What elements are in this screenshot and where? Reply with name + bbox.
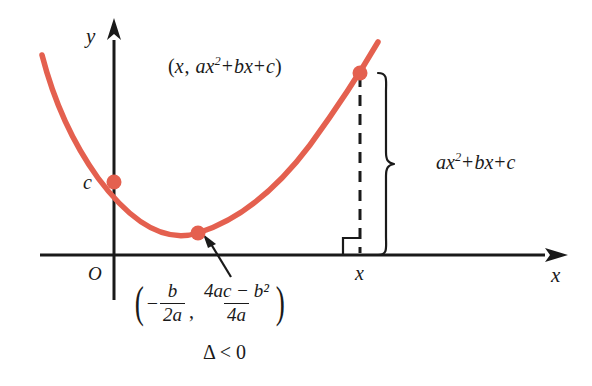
brace-expr-bx: bx [474, 151, 493, 173]
height-brace [378, 73, 394, 255]
vertex-open-paren: ( [135, 285, 144, 321]
y-intercept-label: c [83, 172, 92, 192]
brace-expr-c: c [507, 151, 516, 173]
brace-expr-plus-1: + [461, 151, 474, 173]
vertex-y-fraction: 4ac − b² 4a [201, 281, 272, 325]
y-axis-label: y [86, 26, 95, 47]
point-coord-exponent: 2 [214, 54, 220, 68]
x-tick-label: x [355, 263, 364, 283]
brace-expr-ax: ax [436, 151, 455, 173]
vertex-minus-sign: − [147, 292, 159, 315]
point-coord-plus-2: + [253, 55, 266, 77]
vertex-x-denominator: 2a [160, 303, 185, 326]
point-coord-c: c [266, 55, 275, 77]
point-coord-ax: ax [196, 55, 215, 77]
point-vertex [191, 226, 206, 241]
point-on-curve [353, 66, 368, 81]
point-coord-plus-1: + [221, 55, 234, 77]
discriminant-label: Δ < 0 [203, 341, 246, 364]
point-coord-comma: , [184, 55, 191, 77]
point-coord-close-paren: ) [275, 55, 282, 77]
point-coord-open-paren: ( [168, 55, 175, 77]
vertex-coordinate-label: ( − b 2a , 4ac − b² 4a ) [132, 281, 288, 325]
vertex-comma: , [186, 300, 200, 325]
point-coord-x: x [175, 55, 184, 77]
right-angle-marker [343, 238, 360, 254]
vertex-x-fraction: b 2a [160, 281, 185, 325]
point-coordinate-label: (x, ax2+bx+c) [168, 56, 282, 76]
point-y-intercept [107, 175, 122, 190]
vertex-y-numerator: 4ac − b² [201, 281, 272, 303]
diagram-canvas [0, 0, 592, 386]
brace-expression-label: ax2+bx+c [436, 152, 515, 172]
origin-label: O [88, 264, 102, 283]
x-axis [40, 248, 568, 262]
point-coord-bx: bx [234, 55, 253, 77]
brace-expr-plus-2: + [493, 151, 506, 173]
vertex-close-paren: ) [276, 285, 285, 321]
x-axis-label: x [551, 265, 560, 286]
parabola-diagram: y x O c x (x, ax2+bx+c) ax2+bx+c ( − b 2… [0, 0, 592, 386]
vertex-y-denominator: 4a [224, 303, 249, 326]
y-axis [107, 18, 121, 300]
vertex-x-numerator: b [165, 281, 181, 303]
